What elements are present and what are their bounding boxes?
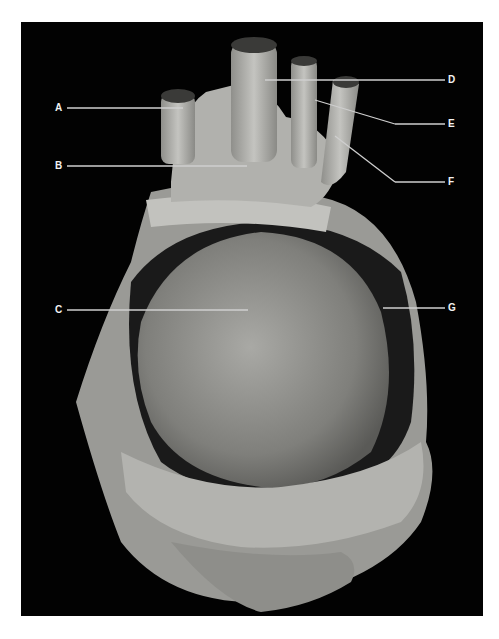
label-b: B bbox=[55, 161, 62, 171]
specimen-photo bbox=[21, 22, 483, 616]
heart-specimen-illustration bbox=[21, 22, 483, 616]
label-a: A bbox=[55, 103, 62, 113]
label-c: C bbox=[55, 305, 62, 315]
label-f: F bbox=[448, 177, 454, 187]
label-g: G bbox=[448, 303, 456, 313]
label-d: D bbox=[448, 75, 455, 85]
label-e: E bbox=[448, 119, 455, 129]
